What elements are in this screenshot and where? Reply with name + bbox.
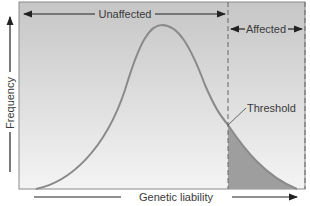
x-axis-label: Genetic liability [139, 191, 213, 203]
unaffected-label: Unaffected [98, 8, 151, 20]
threshold-diagram: Unaffected Affected Threshold Genetic li… [0, 0, 310, 206]
y-axis-label: Frequency [4, 77, 16, 129]
threshold-label: Threshold [247, 102, 296, 114]
affected-label: Affected [246, 23, 286, 35]
